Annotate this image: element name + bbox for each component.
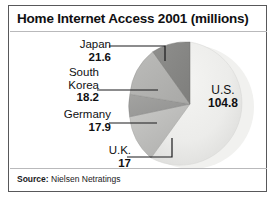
pie-label-south-korea-value: 18.2 <box>17 91 99 104</box>
pie-label-south-korea-name-line2: Korea <box>17 79 99 92</box>
pie-label-south-korea: South Korea 18.2 <box>17 66 99 104</box>
pie-label-japan-value: 21.6 <box>29 51 111 64</box>
pie-label-us: U.S. 104.8 <box>195 84 251 110</box>
chart-figure: Home Internet Access 2001 (millions) <box>8 5 267 192</box>
source-note: Source: Nielsen Netratings <box>17 174 120 184</box>
pie-label-japan: Japan 21.6 <box>29 38 111 63</box>
pie-label-south-korea-name-line1: South <box>17 66 99 79</box>
pie-chart-plot-area: Japan 21.6 South Korea 18.2 Germany 17.9… <box>9 28 266 169</box>
chart-title: Home Internet Access 2001 (millions) <box>17 11 261 26</box>
pie-label-germany-value: 17.9 <box>17 121 111 134</box>
pie-label-germany: Germany 17.9 <box>17 108 111 133</box>
pie-label-uk-name: U.K. <box>59 144 131 157</box>
pie-label-japan-name: Japan <box>29 38 111 51</box>
source-value: Nielsen Netratings <box>51 174 120 184</box>
source-divider <box>10 168 267 169</box>
pie-label-us-value: 104.8 <box>195 97 251 110</box>
pie-label-uk: U.K. 17 <box>59 144 131 169</box>
source-label: Source: <box>17 174 49 184</box>
pie-label-germany-name: Germany <box>17 108 111 121</box>
